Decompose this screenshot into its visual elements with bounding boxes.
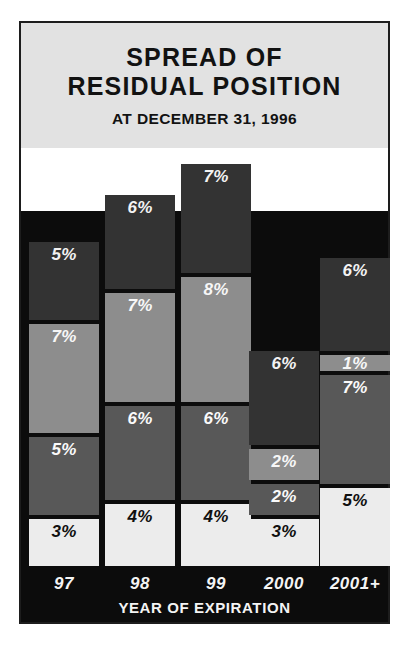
- bar-segment: 8%: [181, 277, 251, 402]
- segment-value-label: 7%: [320, 379, 390, 396]
- segment-value-label: 7%: [29, 328, 99, 345]
- chart-subtitle: AT DECEMBER 31, 1996: [112, 110, 297, 128]
- bar-segment: 6%: [249, 351, 319, 445]
- bar-segment: 1%: [320, 355, 390, 371]
- chart-header: SPREAD OF RESIDUAL POSITION AT DECEMBER …: [21, 23, 388, 148]
- bar-98: 6%7%6%4%: [105, 195, 175, 566]
- bar-segment: 7%: [320, 375, 390, 484]
- x-tick-2000: 2000: [249, 574, 319, 594]
- x-tick-98: 98: [105, 574, 175, 594]
- bar-segment: 3%: [29, 519, 99, 566]
- bar-segment: 6%: [181, 406, 251, 500]
- bar-97: 5%7%5%3%: [29, 242, 99, 566]
- x-tick-2001plus: 2001+: [320, 574, 390, 594]
- x-axis-ticks: 97989920002001+: [21, 568, 388, 594]
- bar-segment: 3%: [249, 519, 319, 566]
- segment-value-label: 6%: [181, 410, 251, 427]
- bar-segment: 2%: [249, 484, 319, 515]
- segment-value-label: 5%: [29, 246, 99, 263]
- segment-value-label: 8%: [181, 281, 251, 298]
- segment-value-label: 2%: [249, 488, 319, 505]
- bar-segment: 5%: [320, 488, 390, 566]
- bar-segment: 5%: [29, 437, 99, 515]
- bar-segment: 6%: [105, 195, 175, 289]
- bar-segment: 7%: [29, 324, 99, 433]
- bar-segment: 7%: [105, 293, 175, 402]
- segment-value-label: 1%: [320, 355, 390, 372]
- plot-area: 5%7%5%3%6%7%6%4%7%8%6%4%6%2%2%3%6%1%7%5%…: [21, 148, 388, 622]
- x-tick-97: 97: [29, 574, 99, 594]
- bar-segment: 6%: [105, 406, 175, 500]
- segment-value-label: 5%: [29, 441, 99, 458]
- bar-group: 5%7%5%3%6%7%6%4%7%8%6%4%6%2%2%3%6%1%7%5%: [21, 148, 388, 566]
- segment-value-label: 7%: [105, 297, 175, 314]
- segment-value-label: 2%: [249, 453, 319, 470]
- segment-value-label: 5%: [320, 492, 390, 509]
- bar-2001plus: 6%1%7%5%: [320, 258, 390, 566]
- segment-value-label: 6%: [249, 355, 319, 372]
- segment-value-label: 7%: [181, 168, 251, 185]
- bar-segment: 7%: [181, 164, 251, 273]
- bar-segment: 4%: [105, 504, 175, 566]
- bar-segment: 6%: [320, 258, 390, 352]
- page-title-line2: RESIDUAL POSITION: [67, 72, 341, 101]
- chart-frame: SPREAD OF RESIDUAL POSITION AT DECEMBER …: [19, 21, 390, 624]
- bar-segment: 5%: [29, 242, 99, 320]
- segment-value-label: 4%: [181, 508, 251, 525]
- bar-2000: 6%2%2%3%: [249, 351, 319, 566]
- bar-99: 7%8%6%4%: [181, 164, 251, 566]
- bar-segment: 4%: [181, 504, 251, 566]
- segment-value-label: 3%: [29, 523, 99, 540]
- segment-value-label: 3%: [249, 523, 319, 540]
- segment-value-label: 6%: [320, 262, 390, 279]
- x-axis-title: YEAR OF EXPIRATION: [21, 599, 388, 616]
- x-tick-99: 99: [181, 574, 251, 594]
- segment-value-label: 6%: [105, 410, 175, 427]
- segment-value-label: 4%: [105, 508, 175, 525]
- page-title-line1: SPREAD OF: [126, 43, 283, 72]
- bar-segment: 2%: [249, 449, 319, 480]
- segment-value-label: 6%: [105, 199, 175, 216]
